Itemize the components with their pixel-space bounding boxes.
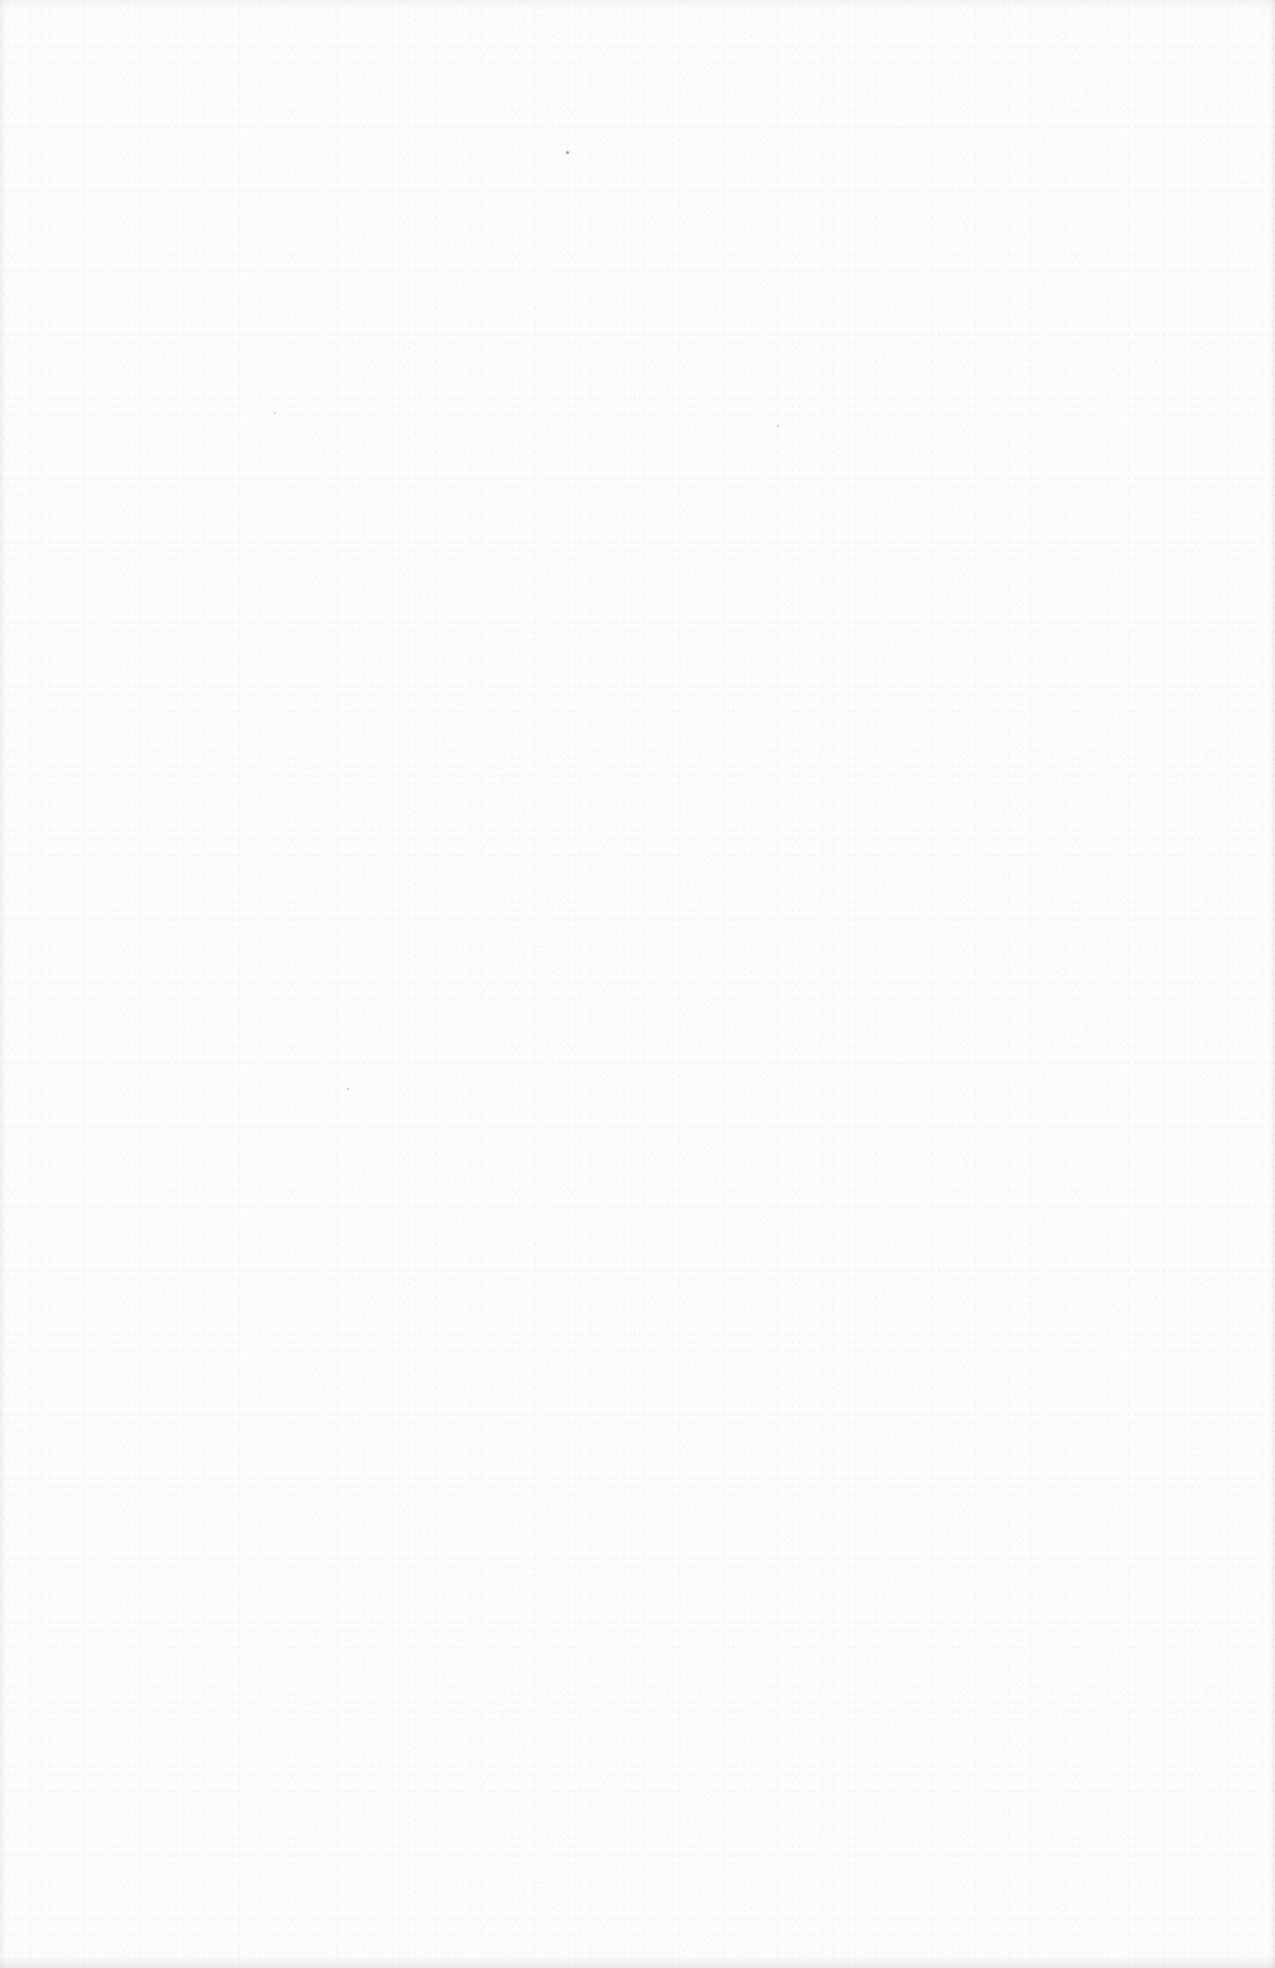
dust-speck <box>274 412 276 414</box>
page-edge-bottom <box>0 1956 1275 1968</box>
page-edge-top <box>0 0 1275 10</box>
page-edge-right <box>1269 0 1275 1968</box>
dust-speck <box>566 151 569 154</box>
blank-page <box>0 0 1275 1968</box>
dust-speck <box>777 425 779 427</box>
page-edge-left <box>0 0 6 1968</box>
dust-speck <box>347 1088 349 1090</box>
